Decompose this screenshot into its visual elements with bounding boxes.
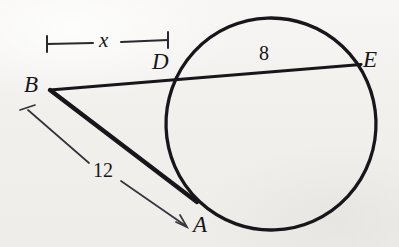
point-label-d: D <box>152 50 169 73</box>
dimension-bar-right-run <box>121 40 168 42</box>
point-label-a: A <box>193 213 207 236</box>
geometry-figure: B D E A x 8 12 <box>0 0 399 247</box>
measure-label-12: 12 <box>93 160 113 180</box>
tangent-line-ba <box>50 90 197 202</box>
measure-label-x: x <box>99 30 108 51</box>
secant-line-bde <box>50 65 361 91</box>
dimension-bar-left-run <box>47 43 93 44</box>
point-label-e: E <box>363 48 377 71</box>
leader-line-upper <box>28 110 89 163</box>
point-label-b: B <box>24 73 38 96</box>
leader-start-tick <box>20 105 35 110</box>
geometry-canvas <box>0 0 399 247</box>
measure-label-8: 8 <box>259 43 269 63</box>
